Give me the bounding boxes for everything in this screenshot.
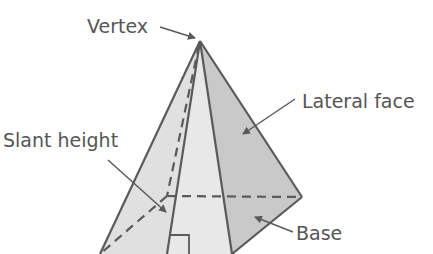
lateral-face-arrow-icon [243, 99, 295, 134]
lateral-face-label: Lateral face [302, 90, 415, 112]
slant-height-label: Slant height [3, 129, 118, 151]
vertex-arrow-icon [160, 27, 195, 38]
pyramid-diagram: Vertex Lateral face Slant height Base [0, 0, 433, 254]
base-label: Base [296, 222, 342, 244]
vertex-label: Vertex [87, 15, 148, 37]
pyramid-svg: Vertex Lateral face Slant height Base [0, 0, 433, 254]
